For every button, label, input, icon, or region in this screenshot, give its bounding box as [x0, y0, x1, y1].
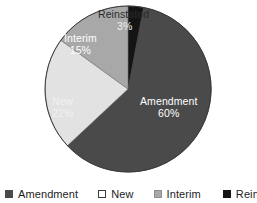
- legend-label-new: New: [111, 188, 133, 200]
- slice-label-interim-name: Interim: [64, 33, 97, 45]
- legend-item-amendment[interactable]: Amendment: [5, 188, 78, 200]
- legend-label-interim: Interim: [167, 188, 201, 200]
- legend-item-reinstated[interactable]: Reinstated: [223, 188, 257, 200]
- pie-plot-area: Amendment 60% New 22% Interim 15% Reinst…: [0, 0, 257, 180]
- slice-label-reinstated-value-wrap: 3%: [117, 21, 132, 33]
- legend-swatch-reinstated: [223, 190, 231, 198]
- slice-label-new-value: 22%: [52, 108, 73, 120]
- pie-chart-figure: Amendment 60% New 22% Interim 15% Reinst…: [0, 0, 257, 203]
- legend-swatch-new: [98, 190, 106, 198]
- legend-item-interim[interactable]: Interim: [154, 188, 201, 200]
- legend-swatch-amendment: [5, 190, 13, 198]
- chart-legend: Amendment New Interim Reinstated: [0, 184, 257, 203]
- slice-label-interim: Interim 15%: [64, 33, 97, 57]
- legend-label-amendment: Amendment: [18, 188, 78, 200]
- legend-swatch-interim: [154, 190, 162, 198]
- slice-label-amendment-name: Amendment: [140, 96, 198, 108]
- slice-label-amendment: Amendment 60%: [140, 96, 198, 120]
- slice-label-new: New 22%: [52, 96, 73, 120]
- slice-label-reinstated: Reinstated: [98, 9, 149, 21]
- slice-label-amendment-value: 60%: [140, 108, 198, 120]
- legend-label-reinstated: Reinstated: [236, 188, 257, 200]
- slice-label-new-name: New: [52, 96, 73, 108]
- slice-label-interim-value: 15%: [64, 45, 97, 57]
- legend-item-new[interactable]: New: [98, 188, 133, 200]
- slice-label-reinstated-value: 3%: [117, 21, 132, 33]
- slice-label-reinstated-name: Reinstated: [98, 9, 149, 21]
